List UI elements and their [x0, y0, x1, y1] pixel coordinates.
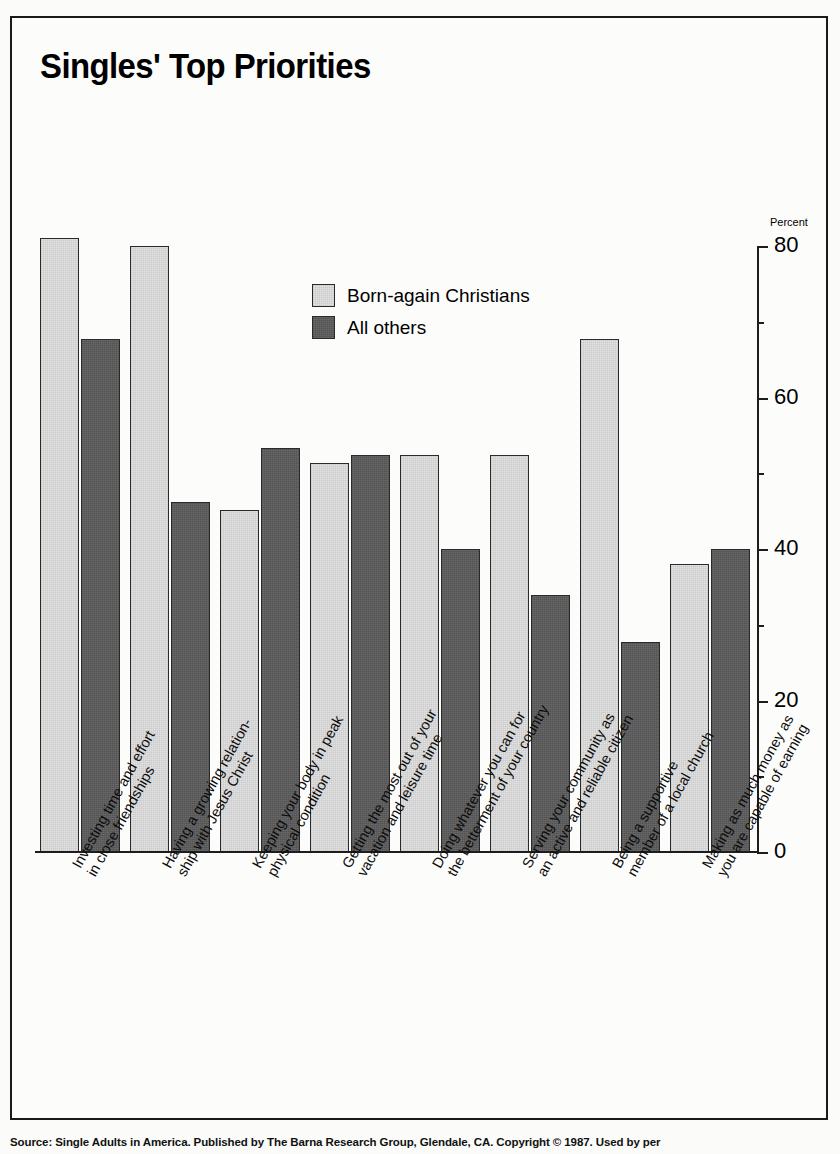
bar-all-others-4	[441, 549, 480, 852]
plot-area	[35, 230, 755, 852]
bar-born-again-christians-1	[130, 246, 169, 852]
y-axis-title: Percent	[770, 216, 808, 228]
bar-all-others-3	[351, 455, 390, 852]
bar-born-again-christians-5	[490, 455, 529, 852]
y-tick-label-60: 60	[774, 386, 798, 408]
y-tick-major-40	[757, 549, 768, 551]
y-tick-major-20	[757, 701, 768, 703]
y-tick-label-0: 0	[774, 840, 786, 862]
bar-all-others-7	[711, 549, 750, 852]
bar-born-again-christians-7	[670, 564, 709, 852]
bar-born-again-christians-2	[220, 510, 259, 852]
bar-born-again-christians-6	[580, 339, 619, 852]
bar-all-others-6	[621, 642, 660, 852]
y-tick-major-60	[757, 398, 768, 400]
y-tick-major-0	[757, 852, 768, 854]
bar-all-others-2	[261, 448, 300, 852]
bar-born-again-christians-0	[40, 238, 79, 852]
y-tick-minor-10	[757, 776, 764, 778]
chart-card: Singles' Top Priorities Born-again Chris…	[10, 16, 828, 1120]
y-tick-major-80	[757, 246, 768, 248]
y-tick-label-40: 40	[774, 537, 798, 559]
y-tick-minor-30	[757, 625, 764, 627]
page-title: Singles' Top Priorities	[40, 46, 371, 86]
y-tick-label-80: 80	[774, 234, 798, 256]
bar-all-others-5	[531, 595, 570, 852]
bar-born-again-christians-4	[400, 455, 439, 852]
bar-all-others-1	[171, 502, 210, 852]
bar-all-others-0	[81, 339, 120, 852]
source-note: Source: Single Adults in America. Publis…	[10, 1136, 838, 1148]
y-tick-minor-50	[757, 473, 764, 475]
bar-born-again-christians-3	[310, 463, 349, 852]
y-tick-label-20: 20	[774, 689, 798, 711]
y-axis: Percent 020406080	[757, 230, 840, 856]
y-tick-minor-70	[757, 322, 764, 324]
x-axis-line	[35, 851, 757, 853]
